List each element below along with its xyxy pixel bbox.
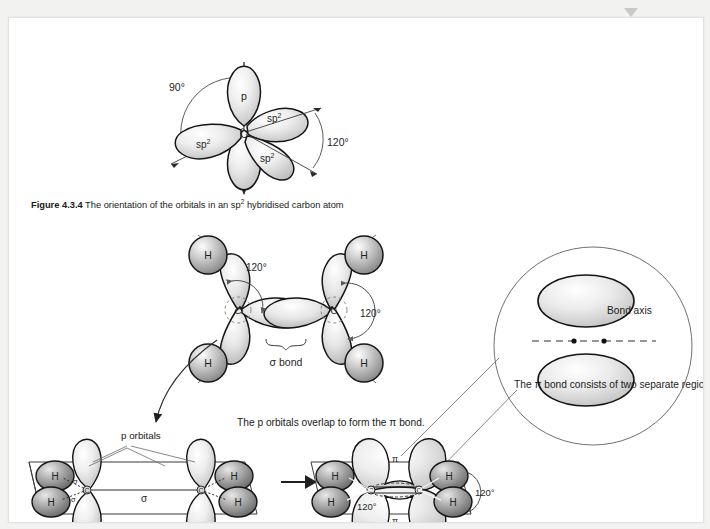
- sigma-label: σ: [141, 493, 148, 504]
- figure-number: Figure 4.3.4: [31, 200, 83, 210]
- hydrogen-label: H: [360, 357, 368, 369]
- sp2-carbon-diagram: 90° 120° p C sp2 sp2 sp2: [149, 56, 369, 201]
- angle-label-outer: 120°: [475, 487, 495, 498]
- caption-text-after: hybridised carbon atom: [244, 200, 343, 210]
- figure-caption: Figure 4.3.4 The orientation of the orbi…: [31, 198, 344, 212]
- overlap-caption: The p orbitals overlap to form the π bon…: [237, 416, 382, 429]
- hydrogen-label: H: [234, 497, 241, 508]
- pi-bond-description: The π bond consists of two separate regi…: [514, 378, 674, 392]
- hydrogen-label: H: [449, 497, 456, 508]
- hydrogen-label: H: [360, 249, 368, 261]
- sigma-bond-label: σ bond: [270, 356, 303, 368]
- caption-text-before: The orientation of the orbitals in an sp: [85, 200, 241, 210]
- chevron-down-triangle-icon: [624, 8, 638, 17]
- carbon-label: C: [235, 305, 242, 316]
- flow-arrow-curved: [109, 338, 239, 443]
- orbital-label-p: p: [241, 90, 247, 102]
- hydrogen-label: H: [327, 497, 334, 508]
- textbook-page: 90° 120° p C sp2 sp2 sp2 Figure 4.3.4 Th…: [8, 17, 704, 523]
- hydrogen-label: H: [51, 471, 58, 482]
- pi-label: π: [392, 454, 398, 464]
- hydrogen-label: H: [331, 471, 338, 482]
- hydrogen-label: H: [230, 471, 237, 482]
- sigma-label-small: σ: [71, 495, 76, 504]
- angle-label-right: 120°: [360, 308, 381, 319]
- scroll-marker-top[interactable]: [624, 8, 638, 17]
- hydrogen-label: H: [47, 497, 54, 508]
- carbon-label: C: [84, 487, 89, 494]
- p-orbitals-before-overlap-diagram: H H H H C C σ σ σ: [27, 440, 277, 523]
- angle-label-inner: 120°: [357, 501, 377, 512]
- svg-text:90°: 90°: [169, 81, 185, 93]
- pi-bond-formed-diagram: H H H H C C π π 120° 120°: [309, 440, 489, 523]
- carbon-label: C: [331, 305, 338, 316]
- pi-label: π: [392, 516, 398, 523]
- sigma-label-small: σ: [73, 477, 78, 486]
- center-atom-label: C: [240, 128, 248, 140]
- svg-text:120°: 120°: [327, 136, 349, 148]
- angle-label-left: 120°: [246, 262, 267, 273]
- hydrogen-label: H: [445, 471, 452, 482]
- p-orbitals-label: p orbitals: [121, 430, 161, 443]
- hydrogen-label: H: [204, 249, 212, 261]
- carbon-label: C: [198, 487, 203, 494]
- bond-axis-label: Bond axis: [607, 304, 652, 317]
